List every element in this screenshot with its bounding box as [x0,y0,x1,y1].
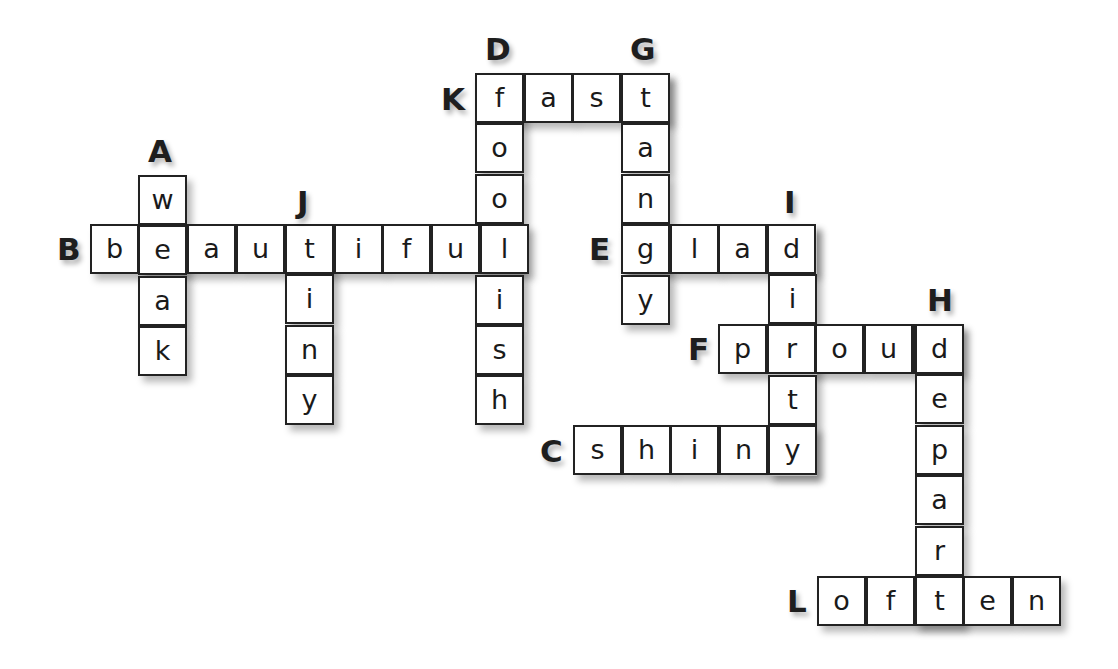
cell-letter: a [540,84,557,111]
cell-letter: f [402,235,412,262]
cell-letter: f [495,84,505,111]
cell-letter: d [931,335,948,362]
cell-letter: r [786,335,797,362]
letter-cell[interactable]: a [621,123,670,173]
letter-cell[interactable]: i [670,425,719,475]
letter-cell[interactable]: i [475,275,524,325]
clue-number-label: L [787,586,807,617]
cell-letter: i [691,436,699,463]
letter-cell[interactable]: b [90,224,139,274]
letter-cell[interactable]: p [718,324,767,374]
letter-cell[interactable]: t [768,375,817,425]
cell-letter: k [155,337,171,364]
cell-letter: t [934,587,945,614]
clue-number-label: J [297,187,309,218]
cell-letter: n [637,185,654,212]
cell-letter: s [590,436,604,463]
letter-cell[interactable]: a [915,475,964,525]
letter-cell[interactable]: s [573,425,622,475]
letter-cell[interactable]: y [768,425,817,475]
cell-letter: y [785,436,801,463]
letter-cell[interactable]: f [475,73,524,123]
letter-cell[interactable]: t [621,73,670,123]
letter-cell[interactable]: n [621,174,670,224]
cell-letter: o [491,134,508,161]
letter-cell[interactable]: h [622,425,671,475]
clue-number-label: K [441,84,465,115]
letter-cell[interactable]: f [866,576,915,626]
cell-letter: i [789,285,797,312]
letter-cell[interactable]: s [572,73,621,123]
clue-number-label: F [688,334,709,365]
cell-letter: o [833,587,850,614]
letter-cell[interactable]: y [621,275,670,325]
clue-number-label: B [57,234,81,265]
letter-cell[interactable]: w [138,175,187,225]
letter-cell[interactable]: u [431,224,480,274]
letter-cell[interactable]: o [817,576,866,626]
cell-letter: a [931,486,948,513]
cell-letter: p [734,335,751,362]
letter-cell[interactable]: o [475,174,524,224]
clue-number-label: G [630,34,655,65]
cell-letter: y [302,386,318,413]
cell-letter: e [979,587,996,614]
letter-cell[interactable]: n [719,425,768,475]
letter-cell[interactable]: s [475,325,524,375]
letter-cell[interactable]: u [236,224,285,274]
letter-cell[interactable]: a [138,276,187,326]
letter-cell[interactable]: e [138,225,187,275]
clue-number-label: C [540,436,563,467]
letter-cell[interactable]: o [815,324,864,374]
letter-cell[interactable]: y [285,375,334,425]
cell-letter: g [637,235,654,262]
cell-letter: d [783,235,800,262]
letter-cell[interactable]: l [480,224,529,274]
cell-letter: o [491,185,508,212]
cell-letter: u [447,235,464,262]
cell-letter: f [886,587,896,614]
letter-cell[interactable]: i [334,224,383,274]
cell-letter: t [787,386,798,413]
letter-cell[interactable]: o [475,123,524,173]
letter-cell[interactable]: t [285,224,334,274]
letter-cell[interactable]: k [138,326,187,376]
letter-cell[interactable]: e [963,576,1012,626]
letter-cell[interactable]: h [475,375,524,425]
letter-cell[interactable]: r [915,526,964,576]
cell-letter: r [934,537,945,564]
cell-letter: i [496,286,504,313]
letter-cell[interactable]: p [915,425,964,475]
letter-cell[interactable]: a [187,224,236,274]
letter-cell[interactable]: t [915,576,964,626]
letter-cell[interactable]: e [915,374,964,424]
clue-number-label: D [485,34,511,65]
clue-number-label: A [148,136,172,167]
cell-letter: y [638,286,654,313]
letter-cell[interactable]: i [285,274,334,324]
letter-cell[interactable]: i [768,274,817,324]
cell-letter: s [589,84,603,111]
cell-letter: e [931,385,948,412]
cell-letter: t [304,235,315,262]
letter-cell[interactable]: n [285,325,334,375]
letter-cell[interactable]: g [621,224,670,274]
letter-cell[interactable]: a [718,224,767,274]
cell-letter: e [154,236,171,263]
cell-letter: h [638,436,655,463]
cell-letter: i [306,285,314,312]
letter-cell[interactable]: f [382,224,431,274]
letter-cell[interactable]: l [670,224,719,274]
cell-letter: h [491,386,508,413]
letter-cell[interactable]: d [767,224,816,274]
letter-cell[interactable]: n [1012,576,1061,626]
cell-letter: b [106,235,123,262]
letter-cell[interactable]: d [915,324,964,374]
clue-number-label: H [927,285,953,316]
clue-number-label: I [784,187,796,218]
crossword-board: weakbautifulshinyfooishgladproudtanydepa… [0,0,1118,669]
cell-letter: w [151,186,173,213]
letter-cell[interactable]: r [767,324,816,374]
letter-cell[interactable]: u [864,324,913,374]
letter-cell[interactable]: a [524,73,573,123]
